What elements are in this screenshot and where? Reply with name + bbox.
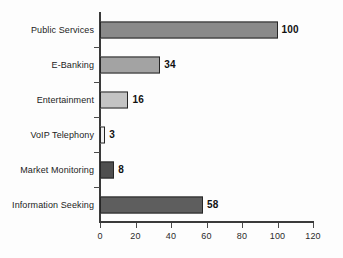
bar-value-label: 16 [132,93,144,104]
value-tick-label: 60 [201,231,211,241]
value-tick [278,223,279,228]
value-tick-label: 80 [237,231,247,241]
category-label: VoIP Telephony [30,130,94,140]
category-tick [94,117,100,118]
category-label: E-Banking [52,60,94,70]
bar [100,21,278,38]
category-tick [94,47,100,48]
plot-area [100,12,313,222]
category-label: Public Services [31,25,94,35]
bar-value-label: 34 [164,58,176,69]
value-tick [207,223,208,228]
category-tick [94,187,100,188]
value-tick-label: 120 [305,231,321,241]
category-label: Market Monitoring [20,165,94,175]
value-tick-label: 100 [270,231,286,241]
value-tick [313,223,314,228]
category-label: Entertainment [37,95,94,105]
value-tick [171,223,172,228]
category-label: Information Seeking [12,200,94,210]
bar [100,161,114,178]
bar [100,196,203,213]
value-tick [100,223,101,228]
value-tick-label: 40 [166,231,176,241]
bar [100,56,160,73]
bar-value-label: 58 [207,198,219,209]
value-tick [136,223,137,228]
value-tick-label: 0 [97,231,102,241]
category-tick [94,152,100,153]
value-tick [242,223,243,228]
bar-value-label: 3 [109,128,115,139]
bar [100,91,128,108]
bar [100,126,105,143]
bar-chart: 020406080100120 Public ServicesE-Banking… [0,0,343,258]
category-tick [94,82,100,83]
value-tick-label: 20 [130,231,140,241]
bar-value-label: 100 [282,23,299,34]
bar-value-label: 8 [118,163,124,174]
